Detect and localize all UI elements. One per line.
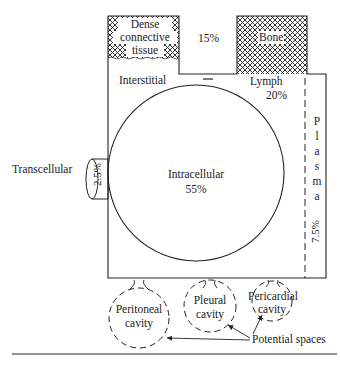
pericardial-label-2: cavity (252, 303, 292, 316)
dense-connective-label-3: tissue (126, 44, 164, 57)
intracellular-percent: 55% (176, 183, 216, 196)
interstitial-label: Interstitial (119, 74, 166, 87)
plasma-percent: 7.5% (309, 220, 322, 243)
lymph-percent: 20% (266, 89, 287, 102)
dense-connective-label: Dense (118, 18, 172, 31)
pleural-label: Pleural (185, 294, 235, 307)
potential-spaces-label: Potential spaces (252, 333, 326, 346)
pericardial-label: Pericardial (242, 290, 304, 303)
transcellular-percent: 2.5% (91, 163, 104, 186)
middle-percent: 15% (198, 32, 219, 45)
plasma-label: P l a s m a (309, 114, 325, 204)
bone-label: Bone (258, 31, 284, 44)
intracellular-label: Intracellular (156, 168, 236, 181)
peritoneal-label-2: cavity (109, 317, 169, 330)
dense-connective-label-2: connective (113, 31, 177, 44)
lymph-label: Lymph (250, 75, 283, 88)
transcellular-label: Transcellular (12, 163, 72, 176)
peritoneal-label: Peritoneal (109, 303, 169, 316)
pleural-label-2: cavity (185, 308, 235, 321)
bone-hatch (237, 16, 307, 74)
